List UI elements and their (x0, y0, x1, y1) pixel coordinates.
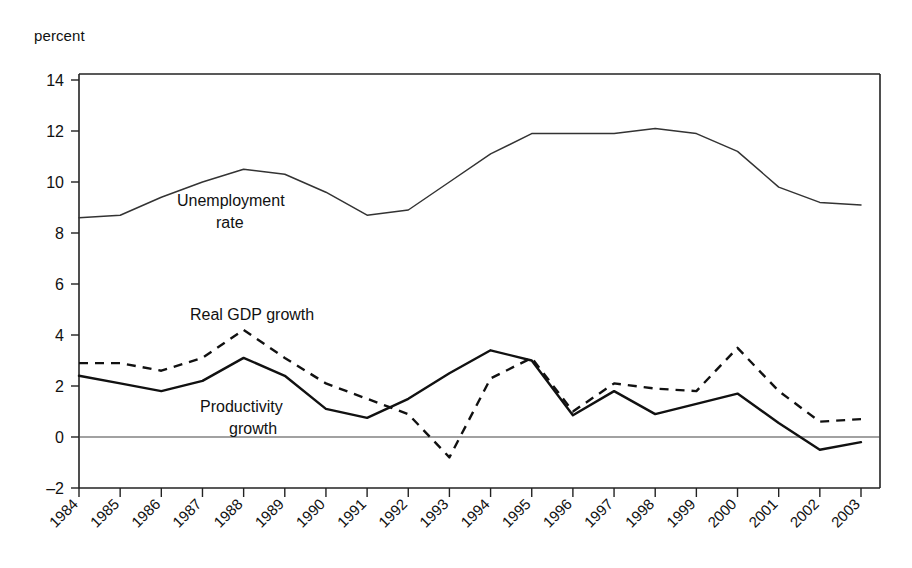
unemployment-label-line2: rate (216, 214, 244, 231)
productivity-label-line1: Productivity (200, 398, 283, 415)
x-tick-label: 1997 (581, 495, 617, 531)
x-tick-label: 2002 (786, 495, 822, 531)
x-tick-label: 1985 (87, 495, 123, 531)
series-line-productivity-growth (79, 350, 861, 450)
x-tick-label: 1999 (663, 495, 699, 531)
chart-container: percent –202468101214 198419851986198719… (0, 0, 912, 568)
y-tick-label: 8 (55, 225, 64, 242)
y-tick-label: 2 (55, 378, 64, 395)
x-tick-label: 1995 (498, 495, 534, 531)
series-line-real-gdp-growth (79, 330, 861, 458)
x-tick-label: 1989 (251, 495, 287, 531)
line-chart-plot: –202468101214 19841985198619871988198919… (0, 0, 912, 568)
y-tick-label: 0 (55, 429, 64, 446)
x-tick-label: 1984 (46, 495, 82, 531)
x-tick-label: 1991 (334, 495, 370, 531)
y-tick-label: 6 (55, 276, 64, 293)
x-tick-label: 2003 (828, 495, 864, 531)
gdp-label: Real GDP growth (190, 306, 314, 323)
x-tick-label: 2001 (745, 495, 781, 531)
productivity-label-line2: growth (229, 420, 277, 437)
x-tick-label: 1986 (128, 495, 164, 531)
x-tick-label: 1998 (622, 495, 658, 531)
x-tick-label: 1990 (292, 495, 328, 531)
x-tick-label: 1996 (539, 495, 575, 531)
x-tick-label: 1987 (169, 495, 205, 531)
data-series-group (79, 128, 861, 457)
x-tick-label: 1994 (457, 495, 493, 531)
x-tick-label: 1993 (416, 495, 452, 531)
x-tick-label: 1992 (375, 495, 411, 531)
y-axis-tick-group: –202468101214 (46, 72, 79, 497)
y-tick-label: 14 (46, 72, 64, 89)
x-axis-tick-group: 1984198519861987198819891990199119921993… (46, 488, 864, 531)
y-tick-label: 10 (46, 174, 64, 191)
y-tick-label: –2 (46, 480, 64, 497)
unemployment-label-line1: Unemployment (177, 192, 285, 209)
y-tick-label: 4 (55, 327, 64, 344)
x-tick-label: 2000 (704, 495, 740, 531)
x-tick-label: 1988 (210, 495, 246, 531)
y-tick-label: 12 (46, 123, 64, 140)
